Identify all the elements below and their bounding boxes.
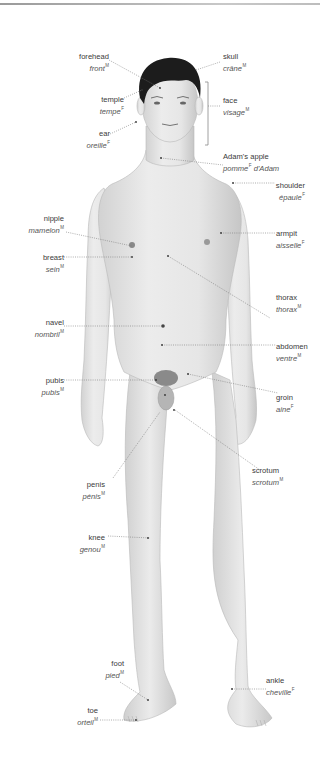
label-thorax: thorax thoraxM	[276, 293, 301, 314]
label-temple: temple tempeF	[100, 95, 124, 116]
label-fr: oreilleF	[86, 138, 110, 150]
label-en: forehead	[79, 52, 109, 61]
label-fr: pénisM	[83, 489, 105, 501]
label-fr: thoraxM	[276, 302, 301, 314]
label-en: scrotum	[252, 466, 283, 475]
label-fr: pubisM	[42, 385, 64, 397]
label-fr: scrotumM	[252, 475, 283, 487]
label-fr: pommeF d'Adam	[223, 161, 279, 173]
label-adams-apple: Adam's apple pommeF d'Adam	[223, 152, 279, 173]
label-en: breast	[43, 253, 64, 262]
label-fr: aisselleF	[276, 238, 305, 250]
label-en: abdomen	[276, 342, 308, 351]
label-fr: ventreM	[276, 351, 308, 363]
label-breast: breast seinM	[43, 253, 64, 274]
label-en: thorax	[276, 293, 301, 302]
label-en: toe	[77, 706, 98, 715]
label-forehead: forehead frontM	[79, 52, 109, 73]
label-fr: seinM	[43, 262, 64, 274]
label-en: Adam's apple	[223, 152, 279, 161]
label-fr: frontM	[79, 61, 109, 73]
label-en: ear	[86, 129, 110, 138]
label-abdomen: abdomen ventreM	[276, 342, 308, 363]
label-en: temple	[100, 95, 124, 104]
label-fr: crâneM	[223, 61, 246, 73]
label-ear: ear oreilleF	[86, 129, 110, 150]
label-en: nipple	[29, 214, 64, 223]
label-fr: aineF	[276, 402, 294, 414]
label-en: skull	[223, 52, 246, 61]
label-fr: mamelonM	[29, 223, 64, 235]
label-navel: navel nombrilM	[35, 318, 64, 339]
label-fr: piedM	[105, 668, 124, 680]
label-pubis: pubis pubisM	[42, 376, 64, 397]
label-fr: genouM	[80, 542, 105, 554]
label-scrotum: scrotum scrotumM	[252, 466, 283, 487]
label-en: knee	[80, 533, 105, 542]
label-en: foot	[105, 659, 124, 668]
label-fr: épauleF	[276, 190, 305, 202]
label-knee: knee genouM	[80, 533, 105, 554]
label-penis: penis pénisM	[83, 480, 105, 501]
label-fr: orteilM	[77, 715, 98, 727]
label-toe: toe orteilM	[77, 706, 98, 727]
label-en: ankle	[266, 676, 295, 685]
label-fr: nombrilM	[35, 327, 64, 339]
label-fr: visageM	[223, 105, 249, 117]
label-skull: skull crâneM	[223, 52, 246, 73]
label-en: groin	[276, 393, 294, 402]
label-groin: groin aineF	[276, 393, 294, 414]
label-en: armpit	[276, 229, 305, 238]
label-shoulder: shoulder épauleF	[276, 181, 305, 202]
label-en: penis	[83, 480, 105, 489]
label-en: navel	[35, 318, 64, 327]
label-fr: tempeF	[100, 104, 124, 116]
label-face: face visageM	[223, 96, 249, 117]
label-fr: chevilleF	[266, 685, 295, 697]
label-foot: foot piedM	[105, 659, 124, 680]
label-en: pubis	[42, 376, 64, 385]
label-armpit: armpit aisselleF	[276, 229, 305, 250]
label-en: face	[223, 96, 249, 105]
label-ankle: ankle chevilleF	[266, 676, 295, 697]
label-en: shoulder	[276, 181, 305, 190]
label-nipple: nipple mamelonM	[29, 214, 64, 235]
